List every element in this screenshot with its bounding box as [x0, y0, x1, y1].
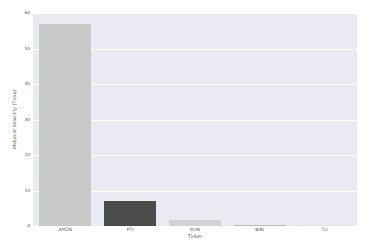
- x-tick-label: RUN: [190, 228, 200, 233]
- y-tick-label: 60: [24, 11, 30, 15]
- plot-area: [33, 13, 357, 226]
- y-tick-label: 30: [24, 117, 30, 121]
- y-tick-label: 50: [24, 46, 30, 50]
- bar-pti: [104, 201, 156, 226]
- y-tick-label: 0: [27, 224, 30, 228]
- y-tick-label: 40: [24, 82, 30, 86]
- bar-chart-figure: 0102030405060 Midpoint Volatility (Ticks…: [0, 0, 371, 251]
- x-axis-label: Ticker: [33, 235, 357, 240]
- bar-amzn: [39, 24, 91, 226]
- bar-series: [33, 13, 357, 226]
- y-tick-label: 10: [24, 188, 30, 192]
- bar-run: [169, 220, 221, 226]
- x-tick-label: TLI: [321, 228, 328, 233]
- bar-biri: [234, 225, 286, 226]
- y-tick-label: 20: [24, 153, 30, 157]
- x-tick-label: BIRI: [255, 228, 264, 233]
- x-tick-label: PTI: [127, 228, 134, 233]
- bar-tli: [299, 225, 351, 226]
- x-tick-label: AMZN: [59, 228, 73, 233]
- y-axis-label: Midpoint Volatility (Ticks): [9, 13, 19, 226]
